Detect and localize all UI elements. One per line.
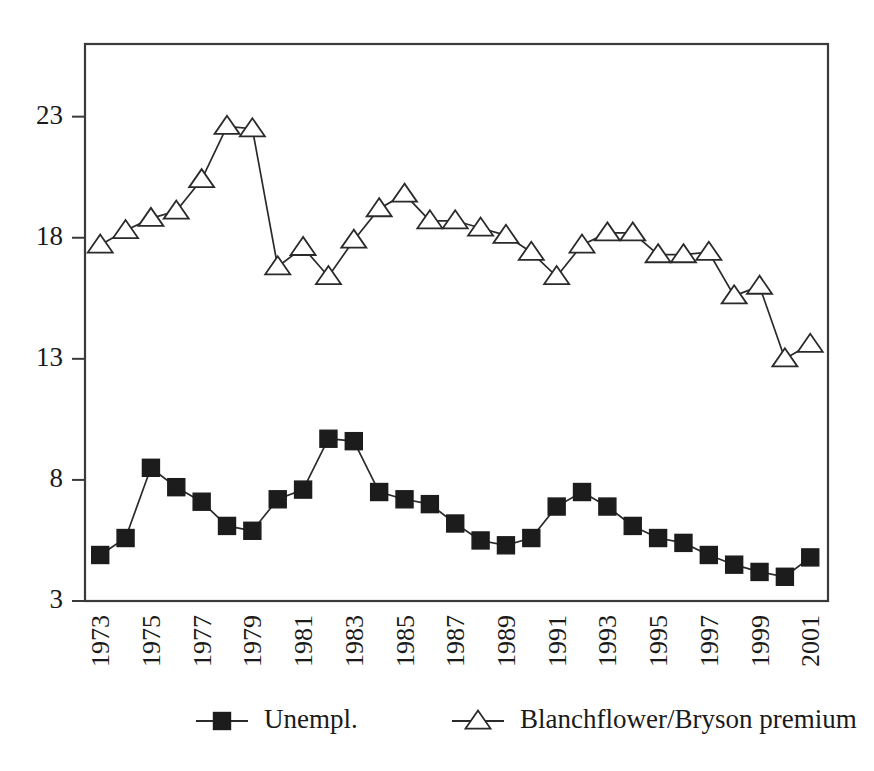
line-chart: 38131823 1973197519771979198119831985198…	[0, 0, 874, 771]
x-tick-label: 1995	[644, 615, 673, 667]
data-point-marker	[497, 537, 514, 554]
data-point-marker	[244, 522, 261, 539]
data-point-marker	[269, 491, 286, 508]
x-tick-label: 1979	[238, 615, 267, 667]
data-point-marker	[396, 491, 413, 508]
x-tick-label: 1981	[289, 615, 318, 667]
data-point-marker	[168, 479, 185, 496]
data-point-marker	[92, 546, 109, 563]
data-point-marker	[193, 493, 210, 510]
x-tick-label: 1989	[492, 615, 521, 667]
x-tick-label: 1997	[695, 615, 724, 667]
x-tick-label: 1977	[188, 615, 217, 667]
x-tick-label: 1975	[137, 615, 166, 667]
data-point-marker	[371, 484, 388, 501]
data-point-marker	[776, 568, 793, 585]
data-point-marker	[574, 484, 591, 501]
y-tick-label: 18	[36, 221, 63, 251]
data-point-marker	[320, 430, 337, 447]
data-point-marker	[142, 459, 159, 476]
legend-label: Blanchflower/Bryson premium	[520, 704, 857, 734]
legend-label: Unempl.	[264, 704, 358, 734]
x-tick-label: 2001	[796, 615, 825, 667]
data-point-marker	[624, 517, 641, 534]
data-point-marker	[599, 498, 616, 515]
chart-legend: Unempl.Blanchflower/Bryson premium	[196, 704, 857, 734]
data-point-marker	[472, 532, 489, 549]
data-point-marker	[295, 481, 312, 498]
data-point-marker	[700, 546, 717, 563]
data-point-marker	[802, 549, 819, 566]
x-tick-label: 1991	[543, 615, 572, 667]
data-point-marker	[345, 433, 362, 450]
data-point-marker	[523, 530, 540, 547]
x-tick-label: 1999	[746, 615, 775, 667]
y-tick-label: 3	[50, 584, 64, 614]
data-point-marker	[726, 556, 743, 573]
data-point-marker	[117, 530, 134, 547]
x-tick-label: 1973	[86, 615, 115, 667]
data-point-marker	[219, 517, 236, 534]
y-tick-label: 8	[50, 463, 64, 493]
chart-figure: 38131823 1973197519771979198119831985198…	[0, 0, 874, 771]
data-point-marker	[548, 498, 565, 515]
y-tick-label: 23	[36, 100, 63, 130]
legend-square-icon	[214, 713, 231, 730]
data-point-marker	[650, 530, 667, 547]
data-point-marker	[751, 563, 768, 580]
y-tick-label: 13	[36, 342, 63, 372]
x-tick-label: 1987	[441, 615, 470, 667]
data-point-marker	[675, 534, 692, 551]
x-tick-label: 1985	[391, 615, 420, 667]
x-tick-label: 1993	[593, 615, 622, 667]
chart-background	[0, 0, 874, 771]
data-point-marker	[447, 515, 464, 532]
x-tick-label: 1983	[340, 615, 369, 667]
x-axis-tick-labels: 1973197519771979198119831985198719891991…	[86, 615, 825, 667]
data-point-marker	[421, 496, 438, 513]
